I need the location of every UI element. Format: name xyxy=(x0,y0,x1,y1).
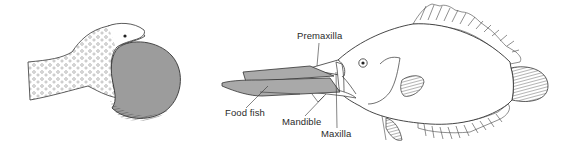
food-fish-illustration xyxy=(222,66,340,102)
pelvic-fin xyxy=(386,118,402,140)
caudal-fin xyxy=(511,67,548,102)
predator-fish-illustration xyxy=(310,4,548,140)
figure-illustration xyxy=(0,0,572,153)
fish-body xyxy=(338,24,513,125)
label-premaxilla: Premaxilla xyxy=(297,30,342,41)
label-food-fish: Food fish xyxy=(225,107,265,118)
label-mandible: Mandible xyxy=(282,116,321,127)
snake-egg-illustration xyxy=(28,23,180,120)
label-maxilla: Maxilla xyxy=(321,128,351,139)
egg xyxy=(111,42,180,119)
snake-eye xyxy=(123,34,126,37)
